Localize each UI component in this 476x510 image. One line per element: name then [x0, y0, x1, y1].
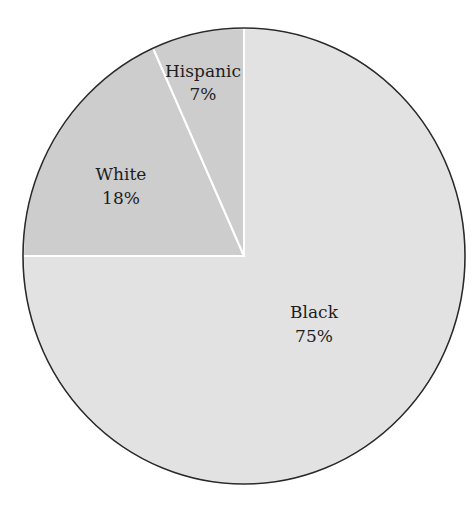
pie-chart: Hispanic 7% White 18% Black 75%	[0, 0, 476, 510]
label-black-pct: 75%	[295, 326, 333, 346]
label-white-pct: 18%	[102, 188, 140, 208]
label-hispanic-pct: 7%	[190, 84, 217, 104]
label-hispanic-name: Hispanic	[165, 61, 241, 81]
label-black-name: Black	[290, 302, 339, 322]
label-white-name: White	[96, 164, 147, 184]
